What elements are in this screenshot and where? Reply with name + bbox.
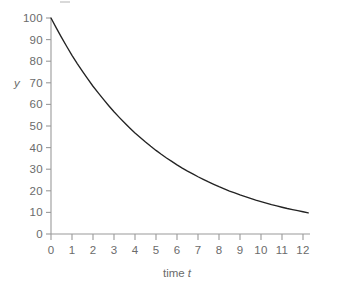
x-axis-title: time t <box>163 267 192 279</box>
x-tick-label-6: 6 <box>174 244 181 256</box>
x-axis-tick-labels: 0 1 2 3 4 5 6 7 8 9 10 11 12 <box>48 244 310 256</box>
y-axis-tick-labels: 0 10 20 30 40 50 60 70 80 90 100 <box>23 12 43 240</box>
y-tick-label-50: 50 <box>30 120 43 132</box>
x-tick-label-12: 12 <box>296 244 309 256</box>
x-tick-label-5: 5 <box>153 244 160 256</box>
y-tick-label-60: 60 <box>30 98 43 110</box>
x-tick-label-2: 2 <box>90 244 97 256</box>
x-tick-label-9: 9 <box>237 244 244 256</box>
y-tick-label-10: 10 <box>30 206 43 218</box>
x-tick-label-3: 3 <box>111 244 118 256</box>
scan-artifact <box>60 1 70 3</box>
y-tick-label-100: 100 <box>23 12 43 24</box>
exponential-decay-chart: 0 10 20 30 40 50 60 70 80 90 100 <box>0 0 339 294</box>
x-tick-label-7: 7 <box>195 244 202 256</box>
x-tick-label-0: 0 <box>48 244 55 256</box>
x-tick-label-11: 11 <box>276 244 289 256</box>
x-axis-ticks <box>51 234 303 240</box>
y-tick-label-80: 80 <box>30 55 43 67</box>
y-tick-label-30: 30 <box>30 163 43 175</box>
y-axis-ticks <box>46 18 51 234</box>
decay-curve <box>51 18 308 213</box>
y-tick-label-90: 90 <box>30 34 43 46</box>
y-tick-label-20: 20 <box>30 185 43 197</box>
y-axis-title: y <box>13 77 21 89</box>
y-tick-label-40: 40 <box>30 142 43 154</box>
x-tick-label-1: 1 <box>69 244 76 256</box>
x-tick-label-8: 8 <box>216 244 223 256</box>
chart-figure: 0 10 20 30 40 50 60 70 80 90 100 <box>0 0 339 294</box>
x-tick-label-10: 10 <box>254 244 267 256</box>
y-tick-label-70: 70 <box>30 77 43 89</box>
x-tick-label-4: 4 <box>132 244 139 256</box>
y-tick-label-0: 0 <box>36 228 43 240</box>
